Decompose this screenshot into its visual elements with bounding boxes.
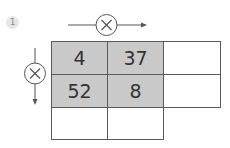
grid-cell-r3c1-answer[interactable]: [51, 107, 108, 140]
grid-cell-r3c3-empty: [163, 107, 221, 140]
grid-cell-r1c1: 4: [51, 41, 108, 75]
grid-cell-r1c3-answer[interactable]: [163, 41, 221, 75]
horizontal-multiply-arrow-icon: [68, 15, 147, 36]
multiplication-grid: 4 37 52 8: [51, 41, 220, 139]
vertical-multiply-arrow-icon: [25, 48, 46, 105]
grid-cell-r2c2: 8: [107, 74, 164, 108]
grid-cell-r2c1: 52: [51, 74, 108, 108]
grid-cell-r3c2-answer[interactable]: [107, 107, 164, 140]
grid-cell-r1c2: 37: [107, 41, 164, 75]
grid-cell-r2c3-answer[interactable]: [163, 74, 221, 108]
